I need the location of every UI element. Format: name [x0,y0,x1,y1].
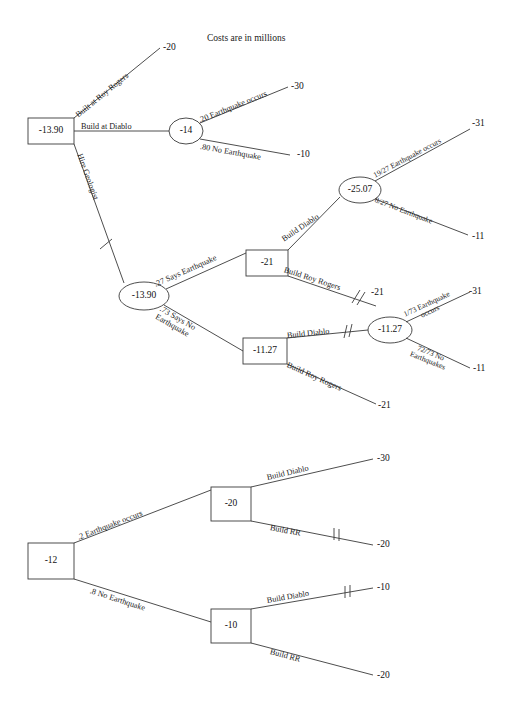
node-value-says-no-eq-decision: -11.27 [243,346,287,356]
prune-mark-diablo-b-1 [344,325,347,338]
payoff-rr-top: -20 [377,539,390,549]
node-value-eq-decision-bottom: -20 [211,499,251,509]
payoff-rr-bottom: -20 [377,670,390,680]
figure-title: Costs are in millions [207,33,285,43]
node-value-no-eq-decision-bottom: -10 [211,621,251,631]
payoff-diablo-bottom: -10 [377,582,390,592]
prune-mark-diablo-b-2 [349,324,352,337]
payoff-no-eq-10: -10 [297,149,310,159]
payoff-roy-rogers-b: -21 [378,400,391,410]
payoff-roy-rogers-a: -21 [371,287,384,297]
payoff-diablo-top: -30 [377,453,390,463]
payoff-eq-19-27: -31 [472,118,485,128]
node-value-root-top: -13.90 [28,126,74,136]
payoff-no-eq-72-73: -11 [473,363,485,373]
payoff-no-eq-8-27: -11 [472,231,484,241]
payoff-eq-occurs-30: -30 [291,81,304,91]
node-value-root-bottom: -12 [28,556,74,566]
payoff-roy-rogers-top: -20 [163,42,176,52]
payoff-eq-1-73: -31 [469,286,482,296]
prune-mark-roy-rogers-a-1 [352,290,360,303]
edge-no-eq-8 [74,579,211,622]
node-value-geologist-chance: -13.90 [119,291,169,301]
edge-build-rr-top [251,521,373,545]
node-value-says-eq-diablo-chance: -25.07 [339,185,381,195]
prune-mark-roy-rogers-a-2 [357,292,365,305]
branch-label-build-at-diablo: Build at Diablo [81,123,131,131]
node-value-says-eq-decision: -21 [246,258,288,268]
decision-tree-figure: Costs are in millions -13.90 -14 -13.90 … [0,0,506,719]
node-value-says-no-eq-diablo-chance: -11.27 [368,325,412,335]
edge-build-rr-bottom [251,643,373,675]
node-value-diablo-chance: -14 [169,126,203,136]
edge-eq-19-27 [375,129,470,181]
